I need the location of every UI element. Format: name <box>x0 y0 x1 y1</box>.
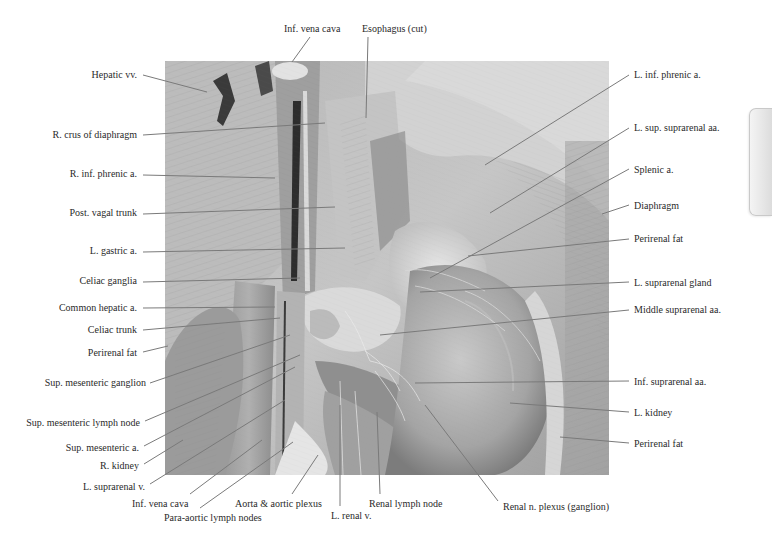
label-left-l-gastric-a: L. gastric a. <box>90 245 137 257</box>
label-right-l-suprarenal-gland: L. suprarenal gland <box>634 277 711 289</box>
label-left-r-kidney: R. kidney <box>100 460 139 472</box>
label-left-celiac-ganglia: Celiac ganglia <box>80 275 137 287</box>
label-right-l-sup-suprarenal-aa: L. sup. suprarenal aa. <box>634 122 720 134</box>
label-left-common-hepatic-a: Common hepatic a. <box>59 302 137 314</box>
label-right-l-inf-phrenic-a: L. inf. phrenic a. <box>634 69 701 81</box>
label-right-splenic-a: Splenic a. <box>634 164 673 176</box>
label-top-esophagus-cut: Esophagus (cut) <box>362 23 427 35</box>
label-right-l-kidney: L. kidney <box>634 407 672 419</box>
label-right-inf-suprarenal-aa: Inf. suprarenal aa. <box>634 376 706 388</box>
label-left-sup-mesenteric-lymph-node: Sup. mesenteric lymph node <box>26 417 140 429</box>
page-tab-edge-icon[interactable] <box>749 108 772 216</box>
label-bottom-renal-lymph-node: Renal lymph node <box>369 498 442 510</box>
label-left-hepatic-vv: Hepatic vv. <box>92 69 137 81</box>
label-right-middle-suprarenal-aa: Middle suprarenal aa. <box>634 304 721 316</box>
label-bottom-renal-n-plexus-ganglion: Renal n. plexus (ganglion) <box>503 501 609 513</box>
label-left-r-inf-phrenic-a: R. inf. phrenic a. <box>70 168 137 180</box>
dissection-photo-graphic <box>165 61 609 475</box>
label-bottom-para-aortic-lymph-nodes: Para-aortic lymph nodes <box>164 512 262 524</box>
label-left-sup-mesenteric-a: Sup. mesenteric a. <box>66 442 139 454</box>
label-left-celiac-trunk: Celiac trunk <box>88 324 137 336</box>
label-bottom-inf-vena-cava: Inf. vena cava <box>132 498 188 510</box>
leader-line <box>292 37 310 62</box>
label-left-post-vagal-trunk: Post. vagal trunk <box>70 207 138 219</box>
label-right-perirenal-fat: Perirenal fat <box>634 233 683 245</box>
label-bottom-l-renal-v: L. renal v. <box>331 510 371 522</box>
label-left-perirenal-fat: Perirenal fat <box>88 347 137 359</box>
label-left-l-suprarenal-v: L. suprarenal v. <box>83 481 145 493</box>
label-left-r-crus-of-diaphragm: R. crus of diaphragm <box>53 129 137 141</box>
label-right-diaphragm: Diaphragm <box>634 200 679 212</box>
label-right-perirenal-fat: Perirenal fat <box>634 438 683 450</box>
dissection-photo <box>165 61 609 475</box>
label-left-sup-mesenteric-ganglion: Sup. mesenteric ganglion <box>45 377 146 389</box>
label-top-inf-vena-cava: Inf. vena cava <box>284 23 340 35</box>
label-bottom-aorta-aortic-plexus: Aorta & aortic plexus <box>235 498 322 510</box>
